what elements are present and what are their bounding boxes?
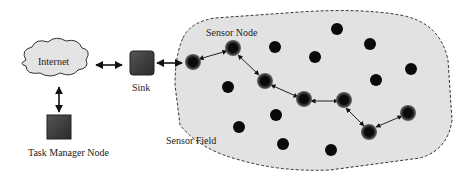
sensor-node-label: Sensor Node bbox=[206, 27, 257, 38]
sink-node bbox=[130, 51, 154, 75]
sensor-field-label: Sensor Field bbox=[166, 135, 216, 146]
internet-label: Internet bbox=[38, 56, 69, 67]
task-manager-node bbox=[47, 115, 71, 139]
wsn-diagram: Internet Sink Task Manager Node Sensor N… bbox=[0, 0, 468, 181]
sink-label: Sink bbox=[132, 82, 150, 93]
task-manager-label: Task Manager Node bbox=[28, 147, 109, 158]
